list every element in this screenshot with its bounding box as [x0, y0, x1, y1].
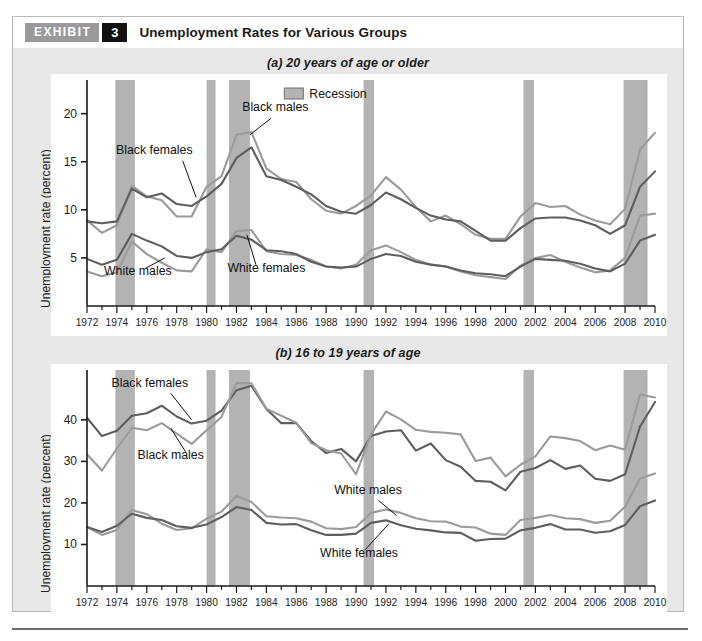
svg-text:1978: 1978 — [165, 597, 188, 608]
svg-text:2006: 2006 — [584, 597, 607, 608]
recession-band-2 — [229, 370, 250, 586]
svg-text:1984: 1984 — [255, 597, 278, 608]
svg-text:2008: 2008 — [614, 597, 637, 608]
svg-text:2000: 2000 — [494, 597, 517, 608]
svg-text:1994: 1994 — [405, 317, 428, 328]
svg-text:2010: 2010 — [644, 317, 667, 328]
svg-text:2002: 2002 — [524, 317, 547, 328]
svg-text:1972: 1972 — [76, 317, 99, 328]
svg-text:2008: 2008 — [614, 317, 637, 328]
annotation-black-females: Black females — [116, 143, 193, 157]
svg-text:2004: 2004 — [554, 317, 577, 328]
svg-text:1986: 1986 — [285, 317, 308, 328]
annotation-black-females: Black females — [112, 376, 189, 390]
chart-panel-b: (b) 16 to 19 years of age Unemployment r… — [13, 338, 683, 618]
svg-text:1998: 1998 — [464, 597, 487, 608]
annotation-white-females: White females — [320, 546, 398, 560]
chart-panel-a: (a) 20 years of age or older Unemploymen… — [13, 48, 683, 338]
svg-text:1998: 1998 — [464, 317, 487, 328]
svg-text:1978: 1978 — [165, 317, 188, 328]
recession-band-4 — [523, 80, 533, 306]
recession-legend-swatch — [284, 88, 303, 99]
exhibit-tag-label: EXHIBIT — [25, 23, 99, 42]
svg-text:1988: 1988 — [315, 317, 338, 328]
svg-text:1986: 1986 — [285, 597, 308, 608]
svg-text:1990: 1990 — [345, 317, 368, 328]
svg-text:20: 20 — [64, 496, 78, 510]
recession-legend: Recession — [284, 87, 367, 101]
recession-band-4 — [523, 370, 533, 586]
svg-text:1980: 1980 — [195, 597, 218, 608]
svg-text:1982: 1982 — [225, 597, 248, 608]
svg-text:1996: 1996 — [434, 597, 457, 608]
svg-text:1976: 1976 — [135, 317, 158, 328]
svg-text:1974: 1974 — [106, 597, 129, 608]
chart-a-title: (a) 20 years of age or older — [13, 56, 683, 70]
chart-b-title: (b) 16 to 19 years of age — [13, 346, 683, 360]
svg-text:15: 15 — [64, 155, 78, 169]
annotation-white-females: White females — [227, 261, 305, 275]
svg-text:1994: 1994 — [405, 597, 428, 608]
svg-text:1972: 1972 — [76, 597, 99, 608]
exhibit-frame: EXHIBIT 3 Unemployment Rates for Various… — [12, 16, 684, 612]
svg-text:30: 30 — [64, 454, 78, 468]
svg-text:1976: 1976 — [135, 597, 158, 608]
recession-band-5 — [624, 80, 648, 306]
recession-band-1 — [207, 370, 216, 586]
svg-text:5: 5 — [70, 251, 77, 265]
svg-text:2006: 2006 — [584, 317, 607, 328]
chart-b-plot-area: 1020304019721974197619781980198219841986… — [51, 364, 667, 616]
svg-text:10: 10 — [64, 203, 78, 217]
recession-legend-label: Recession — [309, 87, 367, 101]
chart-a-plot-area: 5101520197219741976197819801982198419861… — [51, 74, 667, 336]
annotation-black-males: Black males — [242, 100, 308, 114]
annotation-black-males: Black males — [138, 448, 204, 462]
exhibit-page: EXHIBIT 3 Unemployment Rates for Various… — [0, 0, 702, 641]
svg-text:1974: 1974 — [106, 317, 129, 328]
svg-text:1990: 1990 — [345, 597, 368, 608]
svg-text:1980: 1980 — [195, 317, 218, 328]
recession-band-0 — [115, 370, 134, 586]
svg-text:40: 40 — [64, 413, 78, 427]
svg-text:2010: 2010 — [644, 597, 667, 608]
svg-text:2000: 2000 — [494, 317, 517, 328]
svg-text:1992: 1992 — [375, 317, 398, 328]
annotation-white-males: White males — [334, 483, 402, 497]
svg-text:1988: 1988 — [315, 597, 338, 608]
svg-text:1984: 1984 — [255, 317, 278, 328]
exhibit-number-badge: 3 — [102, 23, 127, 42]
svg-text:2002: 2002 — [524, 597, 547, 608]
exhibit-title: Unemployment Rates for Various Groups — [139, 25, 407, 40]
svg-text:1992: 1992 — [375, 597, 398, 608]
page-bottom-rule — [12, 628, 688, 630]
exhibit-header: EXHIBIT 3 Unemployment Rates for Various… — [13, 17, 683, 48]
svg-text:1996: 1996 — [434, 317, 457, 328]
svg-text:2004: 2004 — [554, 597, 577, 608]
svg-text:10: 10 — [64, 537, 78, 551]
annotation-white-males: White males — [104, 264, 172, 278]
svg-text:1982: 1982 — [225, 317, 248, 328]
svg-text:20: 20 — [64, 107, 78, 121]
